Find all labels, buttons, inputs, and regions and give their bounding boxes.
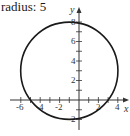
plot-area: x y -6 -4 -2 2 4 8 6 4 2 -2	[0, 0, 130, 136]
x-axis	[10, 97, 129, 103]
y-axis-label: y	[69, 4, 75, 15]
x-tick-label: 4	[115, 102, 120, 112]
y-axis	[76, 7, 82, 130]
x-axis-label: x	[123, 103, 129, 114]
y-tick-label: 4	[71, 56, 76, 66]
y-tick-label: 6	[71, 36, 76, 46]
circle-curve	[21, 22, 118, 119]
x-tick-label: -6	[16, 102, 24, 112]
y-tick-label: 2	[71, 75, 76, 85]
x-tick-label: -2	[55, 102, 63, 112]
